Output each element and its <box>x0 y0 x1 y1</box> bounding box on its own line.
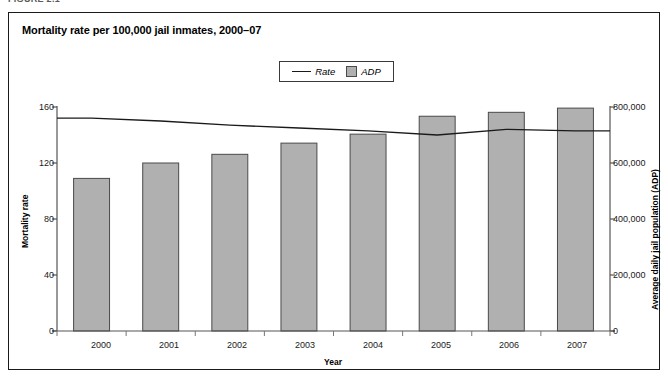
y2-axis-tick-3: 600,000 <box>613 158 668 168</box>
bar-2005 <box>419 116 455 331</box>
y-axis-title: Mortality rate <box>20 195 30 248</box>
x-axis-tick-2001: 2001 <box>139 340 199 350</box>
x-axis-tick-2004: 2004 <box>343 340 403 350</box>
x-axis-tick-2007: 2007 <box>547 340 607 350</box>
x-axis-title: Year <box>324 357 342 367</box>
figure-root: FIGURE 2.1 Mortality rate per 100,000 ja… <box>0 0 668 378</box>
y-axis-tick-4: 160 <box>24 102 54 112</box>
y2-axis-title: Average daily jail population (ADP) <box>650 169 660 310</box>
x-axis-tick-2005: 2005 <box>411 340 471 350</box>
x-axis-tick-2002: 2002 <box>207 340 267 350</box>
rate-line <box>57 118 610 135</box>
bar-2000 <box>74 178 110 331</box>
chart-plot-area <box>0 0 668 378</box>
bar-2003 <box>281 143 317 331</box>
bar-2007 <box>557 108 593 331</box>
bar-2001 <box>143 163 179 331</box>
x-axis-tick-2006: 2006 <box>479 340 539 350</box>
x-axis-tick-2003: 2003 <box>275 340 335 350</box>
bar-2002 <box>212 154 248 331</box>
y-axis-tick-1: 40 <box>24 270 54 280</box>
y-axis-tick-0: 0 <box>24 326 54 336</box>
y2-axis-tick-0: 0 <box>613 326 668 336</box>
bar-2004 <box>350 134 386 331</box>
y2-axis-tick-4: 800,000 <box>613 102 668 112</box>
x-axis-tick-2000: 2000 <box>71 340 131 350</box>
bar-2006 <box>488 112 524 331</box>
y-axis-tick-3: 120 <box>24 158 54 168</box>
